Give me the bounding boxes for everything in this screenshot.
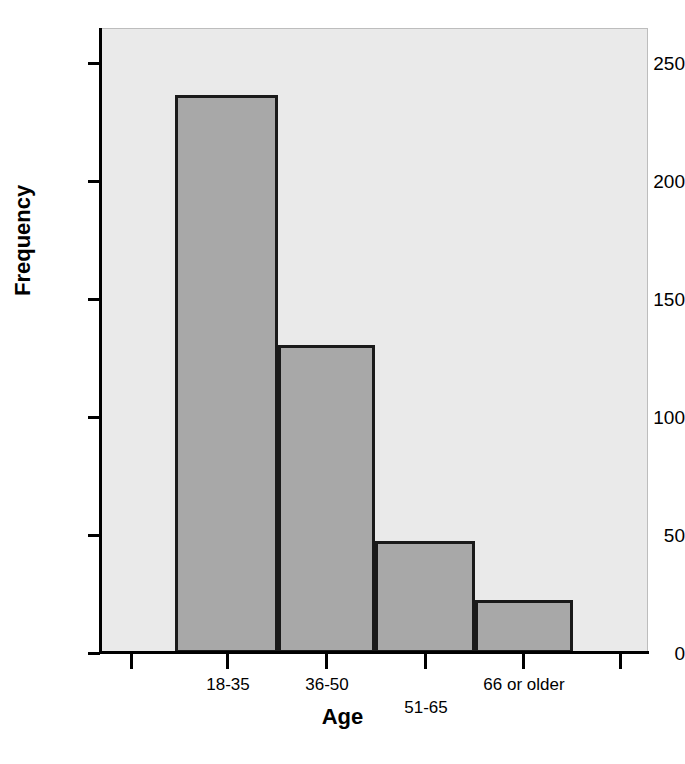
y-tick-50 (88, 534, 100, 537)
y-tick-150 (88, 298, 100, 301)
y-tick-label-50: 50 (565, 526, 685, 545)
histogram-figure: 0 50 100 150 200 250 18-35 36-50 51-65 6… (0, 0, 685, 764)
x-tick-label-18-35: 18-35 (206, 676, 249, 693)
y-tick-100 (88, 416, 100, 419)
y-tick-label-150: 150 (565, 290, 685, 309)
bars-layer (100, 28, 648, 653)
x-tick-3 (424, 654, 427, 669)
bar-66-or-older[interactable] (475, 600, 573, 653)
bar-51-65[interactable] (375, 541, 475, 653)
x-tick-label-66-or-older: 66 or older (483, 676, 564, 693)
x-tick-2 (325, 654, 328, 669)
y-tick-250 (88, 62, 100, 65)
y-tick-200 (88, 180, 100, 183)
y-axis-line (99, 28, 102, 654)
bar-18-35[interactable] (175, 95, 278, 653)
y-tick-label-200: 200 (565, 172, 685, 191)
x-tick-4 (522, 654, 525, 669)
y-tick-label-100: 100 (565, 408, 685, 427)
x-tick-5 (619, 654, 622, 669)
x-tick-label-36-50: 36-50 (305, 676, 348, 693)
y-axis-title: Frequency (12, 185, 34, 296)
x-tick-0 (130, 654, 133, 669)
x-tick-1 (226, 654, 229, 669)
y-tick-label-250: 250 (565, 54, 685, 73)
bar-36-50[interactable] (278, 345, 375, 653)
x-axis-line (99, 651, 649, 654)
x-axis-title: Age (0, 706, 685, 728)
